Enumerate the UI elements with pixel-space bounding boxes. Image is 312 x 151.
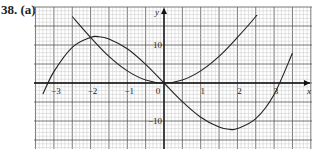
x-tick-label: 0	[156, 86, 161, 96]
y-tick-label: −10	[148, 116, 163, 126]
x-tick-label: 2	[237, 86, 242, 96]
graph: −3−2−1012310−10xy	[0, 0, 312, 151]
x-axis-label: x	[306, 86, 311, 96]
x-tick-label: −1	[125, 86, 135, 96]
y-axis-label: y	[154, 7, 159, 17]
curve-parabola-like	[72, 0, 274, 83]
y-tick-label: 10	[153, 40, 163, 50]
x-tick-label: 1	[200, 86, 205, 96]
x-tick-label: −3	[51, 86, 61, 96]
x-tick-label: −2	[88, 86, 98, 96]
